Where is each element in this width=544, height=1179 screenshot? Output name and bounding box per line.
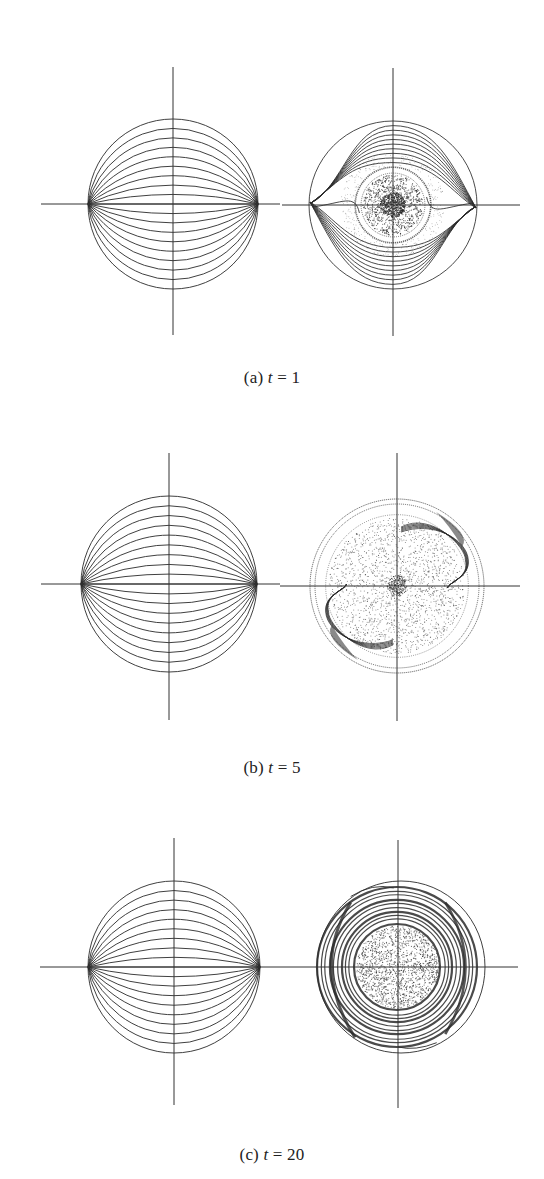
- panel-b: [41, 453, 520, 721]
- caption-label: (a): [244, 368, 263, 387]
- figure: (a) t = 1 (b) t = 5 (c) t = 20: [0, 0, 544, 1179]
- caption-equals: =: [278, 758, 288, 777]
- evolved-state-plot: [280, 453, 520, 721]
- initial-state-plot: [41, 453, 280, 720]
- panel-c: [40, 838, 518, 1108]
- evolved-state-plot: [282, 68, 520, 336]
- caption-equals: =: [273, 1145, 283, 1164]
- panel-a: [41, 67, 520, 336]
- caption-value: 20: [287, 1145, 304, 1164]
- caption-variable: t: [263, 1145, 268, 1164]
- caption-variable: t: [268, 758, 273, 777]
- caption-equals: =: [277, 368, 287, 387]
- caption-label: (b): [243, 758, 263, 777]
- caption-a: (a) t = 1: [0, 368, 544, 388]
- caption-value: 5: [292, 758, 301, 777]
- initial-state-plot: [40, 838, 280, 1105]
- plots-canvas: [0, 0, 544, 1179]
- caption-c: (c) t = 20: [0, 1145, 544, 1165]
- evolved-state-plot: [280, 840, 518, 1108]
- initial-state-plot: [41, 67, 280, 335]
- caption-label: (c): [240, 1145, 259, 1164]
- caption-b: (b) t = 5: [0, 758, 544, 778]
- caption-variable: t: [268, 368, 273, 387]
- caption-value: 1: [291, 368, 300, 387]
